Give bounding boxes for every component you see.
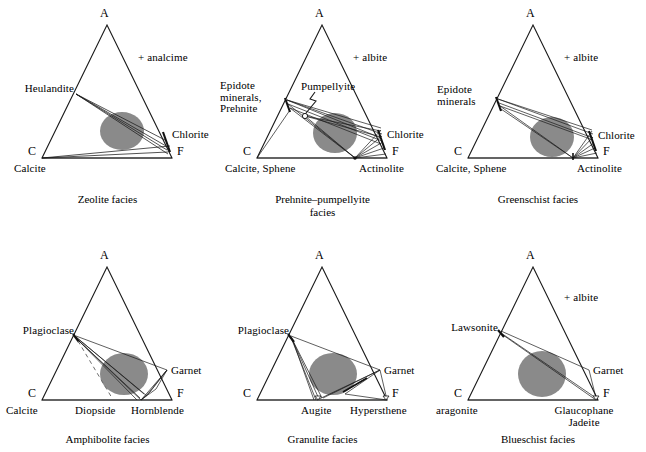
phase-label-aragonite: aragonite (436, 405, 478, 417)
vertex-label-f: F (177, 146, 184, 158)
excess-phase-label: + analcime (138, 52, 188, 64)
phase-label-garnet: Garnet (593, 365, 624, 377)
pumpellyite-node-marker (302, 113, 307, 118)
basalt-field-ellipse (100, 353, 148, 395)
excess-phase-label: + albite (564, 52, 598, 64)
phase-label-lawsonite: Lawsonite (430, 322, 498, 334)
actinolite-node-marker (353, 156, 357, 160)
acf-diagram-grid: A C F + analcime Heulandite Calcite Chlo… (0, 0, 646, 452)
panel-prehnite-pumpellyite: A C F + albite Epidote minerals, Prehnit… (215, 0, 430, 226)
vertex-label-f: F (603, 146, 610, 158)
panel-zeolite: A C F + analcime Heulandite Calcite Chlo… (0, 0, 215, 226)
phase-label-chlorite: Chlorite (387, 129, 424, 141)
panel-amphibolite: A C F Plagioclase Calcite Garnet Diopsid… (0, 226, 215, 452)
phase-label-hypersthene: Hypersthene (350, 405, 407, 417)
panel-caption: Amphibolite facies (0, 433, 215, 446)
panel-caption: Zeolite facies (0, 193, 215, 206)
phase-label-plagioclase: Plagioclase (215, 325, 289, 337)
phase-label-diopside: Diopside (75, 405, 116, 417)
phase-label-actinolite: Actinolite (577, 163, 622, 175)
phase-label-garnet: Garnet (384, 365, 415, 377)
vertex-label-f: F (177, 388, 184, 400)
vertex-label-c: C (454, 388, 462, 400)
excess-phase-label: + albite (564, 292, 598, 304)
phase-label-augite: Augite (301, 405, 332, 417)
panel-blueschist: A C F + albite Lawsonite aragonite Garne… (430, 226, 646, 452)
phase-label-glaucophane-jadeite: Glaucophane Jadeite (538, 405, 630, 428)
phase-label-hornblende: Hornblende (131, 405, 184, 417)
phase-label-chlorite: Chlorite (172, 129, 209, 141)
vertex-label-c: C (28, 388, 36, 400)
phase-label-plagioclase: Plagioclase (0, 325, 74, 337)
panel-caption: Prehnite–pumpellyite facies (215, 193, 430, 218)
vertex-label-f: F (603, 388, 610, 400)
panel-caption: Greenschist facies (430, 193, 646, 206)
tie-lines (42, 336, 172, 400)
excess-phase-label: + albite (353, 52, 387, 64)
vertex-label-a: A (315, 8, 324, 20)
phase-label-calcite: Calcite (14, 163, 46, 175)
phase-label-calcite-sphene: Calcite, Sphene (225, 163, 296, 175)
phase-label-heulandite: Heulandite (0, 83, 74, 95)
vertex-label-f: F (392, 146, 399, 158)
phase-label-epidote-prehnite: Epidote minerals, Prehnite (220, 80, 286, 115)
vertex-label-f: F (392, 388, 399, 400)
panel-granulite: A C F Plagioclase Augite Hypersthene Gar… (215, 226, 430, 452)
phase-label-calcite: Calcite (6, 405, 38, 417)
vertex-label-a: A (315, 250, 324, 262)
vertex-label-a: A (100, 8, 109, 20)
vertex-label-c: C (243, 146, 251, 158)
panel-caption: Granulite facies (215, 433, 430, 446)
vertex-label-a: A (526, 8, 535, 20)
vertex-label-c: C (243, 388, 251, 400)
phase-label-chlorite: Chlorite (598, 130, 635, 142)
phase-label-actinolite: Actinolite (359, 163, 404, 175)
phase-label-garnet: Garnet (171, 365, 202, 377)
phase-label-epidote-minerals: Epidote minerals (437, 84, 495, 107)
vertex-label-a: A (100, 250, 109, 262)
phase-label-pumpellyite: Pumpellyite (301, 81, 355, 93)
panel-caption: Blueschist facies (430, 433, 646, 446)
vertex-label-c: C (454, 146, 462, 158)
phase-label-calcite-sphene: Calcite, Sphene (436, 163, 507, 175)
vertex-label-a: A (526, 250, 535, 262)
panel-greenschist: A C F + albite Epidote minerals Calcite,… (430, 0, 646, 226)
vertex-label-c: C (28, 146, 36, 158)
